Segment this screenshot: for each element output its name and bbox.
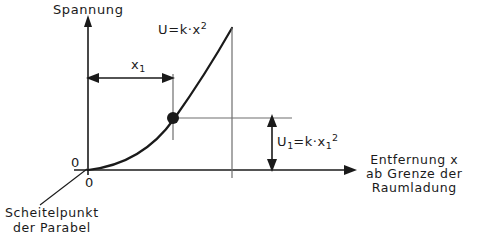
curve-equation-equals: = <box>168 22 180 37</box>
x-axis-caption-line2: ab Grenze der <box>366 166 463 181</box>
curve-equation-label: U=k·x2 <box>158 20 207 37</box>
u1-variable: x <box>318 134 326 149</box>
y-axis-label: Spannung <box>53 2 123 17</box>
curve-equation-variable: x <box>193 22 201 37</box>
vertex-caption-line1: Scheitelpunkt <box>5 205 99 220</box>
parabola-diagram: Spannung U=k·x2 x1 U1=k·x12 0 0 Entfernu… <box>0 0 485 247</box>
curve-equation-coefficient: k <box>180 22 188 37</box>
x-axis <box>74 165 357 175</box>
origin-label-below: 0 <box>85 175 94 190</box>
operating-point-dot <box>167 112 179 124</box>
curve-equation-lhs: U <box>158 22 168 37</box>
u1-value-label: U1=k·x12 <box>277 132 338 151</box>
origin-label-left: 0 <box>71 155 80 170</box>
vertex-leader-line <box>40 169 87 205</box>
x-axis-caption-line1: Entfernung x <box>370 152 458 167</box>
u1-coefficient: k <box>305 134 313 149</box>
u1-equals: = <box>293 134 305 149</box>
u1-exponent: 2 <box>332 132 338 143</box>
u1-dimension-arrow <box>267 114 277 172</box>
x1-dimension-label: x1 <box>131 57 145 74</box>
x1-subscript: 1 <box>139 63 145 74</box>
vertex-caption: Scheitelpunktder Parabel <box>5 205 99 235</box>
y-axis <box>84 15 92 175</box>
curve-equation-exponent: 2 <box>201 20 207 31</box>
x-axis-caption-line3: Raumladung <box>372 180 457 195</box>
x-axis-caption: Entfernung xab Grenze derRaumladung <box>366 153 463 195</box>
x1-dimension-arrow <box>86 73 175 83</box>
vertex-caption-line2: der Parabel <box>13 220 91 235</box>
u1-lhs: U <box>277 134 287 149</box>
parabola-curve <box>88 28 232 170</box>
